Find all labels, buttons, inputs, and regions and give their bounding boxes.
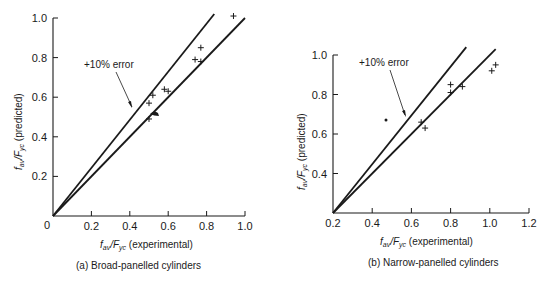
y-tick-label: 0.6 xyxy=(312,128,327,140)
plus-marker xyxy=(448,82,454,88)
y-tick-label: 0.4 xyxy=(32,131,47,143)
x-tick-label: 0.8 xyxy=(199,220,214,232)
annotation-b: +10% error xyxy=(359,57,409,68)
arrowhead-b xyxy=(402,110,406,117)
ink-dot xyxy=(385,119,388,122)
y-tick-label: 1.0 xyxy=(32,12,47,24)
y-tick-label: 1.0 xyxy=(312,49,327,61)
y-tick-label: 0.2 xyxy=(32,170,47,182)
plus-marker xyxy=(448,90,454,96)
reference-line xyxy=(333,49,496,213)
plus-marker xyxy=(489,68,495,74)
annotation-a: +10% error xyxy=(84,59,134,70)
x-tick-label: 1.0 xyxy=(237,220,252,232)
plus-marker xyxy=(422,125,428,131)
chart-broad-panelled: 0.20.40.60.81.0 0.20.40.60.81.0 +10% err… xyxy=(13,12,253,271)
plus-marker xyxy=(198,45,204,51)
x-ticks-b: 0.20.40.60.81.01.2 xyxy=(325,208,536,229)
reference-line xyxy=(333,47,466,213)
x-tick-label: 0.4 xyxy=(122,220,137,232)
y-axis-label-b: fav/Fyc (predicted) xyxy=(296,113,309,190)
origin-label-a: 0 xyxy=(44,219,50,231)
chart-narrow-panelled: 0.20.40.60.81.01.2 0.40.60.81.0 +10% err… xyxy=(296,47,537,268)
y-axis-label-a: fav/Fyc (predicted) xyxy=(13,93,26,170)
x-tick-label: 1.0 xyxy=(482,217,497,229)
reference-lines-b xyxy=(333,47,496,213)
figure: 0.20.40.60.81.0 0.20.40.60.81.0 +10% err… xyxy=(0,0,544,283)
x-axis-label-a: fav/Fyc (experimental) xyxy=(100,239,193,252)
plus-marker xyxy=(192,57,198,63)
reference-line xyxy=(53,14,214,216)
x-tick-label: 0.2 xyxy=(84,220,99,232)
y-tick-label: 0.4 xyxy=(312,168,327,180)
x-tick-label: 0.2 xyxy=(325,217,340,229)
reference-lines-a xyxy=(53,14,245,216)
arrowhead-a xyxy=(128,101,132,108)
x-tick-label: 0.4 xyxy=(365,217,380,229)
x-tick-label: 1.2 xyxy=(521,217,536,229)
axes-b xyxy=(333,55,529,213)
y-tick-label: 0.8 xyxy=(32,52,47,64)
caption-a: (a) Broad-panelled cylinders xyxy=(76,260,201,271)
x-tick-label: 0.8 xyxy=(443,217,458,229)
plus-marker xyxy=(493,62,499,68)
y-tick-label: 0.6 xyxy=(32,91,47,103)
plus-marker xyxy=(418,119,424,125)
annotation-arrow-b xyxy=(390,70,405,115)
y-tick-label: 0.8 xyxy=(312,89,327,101)
plus-marker xyxy=(198,59,204,65)
caption-b: (b) Narrow-panelled cylinders xyxy=(368,257,499,268)
plus-marker xyxy=(146,116,152,122)
y-ticks-b: 0.40.60.81.0 xyxy=(312,49,338,180)
x-tick-label: 0.6 xyxy=(404,217,419,229)
x-axis-label-b: fav/Fyc (experimental) xyxy=(380,236,473,249)
plus-marker xyxy=(146,100,152,106)
plus-marker xyxy=(230,13,236,19)
data-points-b xyxy=(418,62,498,131)
x-ticks-a: 0.20.40.60.81.0 xyxy=(84,211,253,232)
y-ticks-a: 0.20.40.60.81.0 xyxy=(32,12,58,182)
x-tick-label: 0.6 xyxy=(161,220,176,232)
